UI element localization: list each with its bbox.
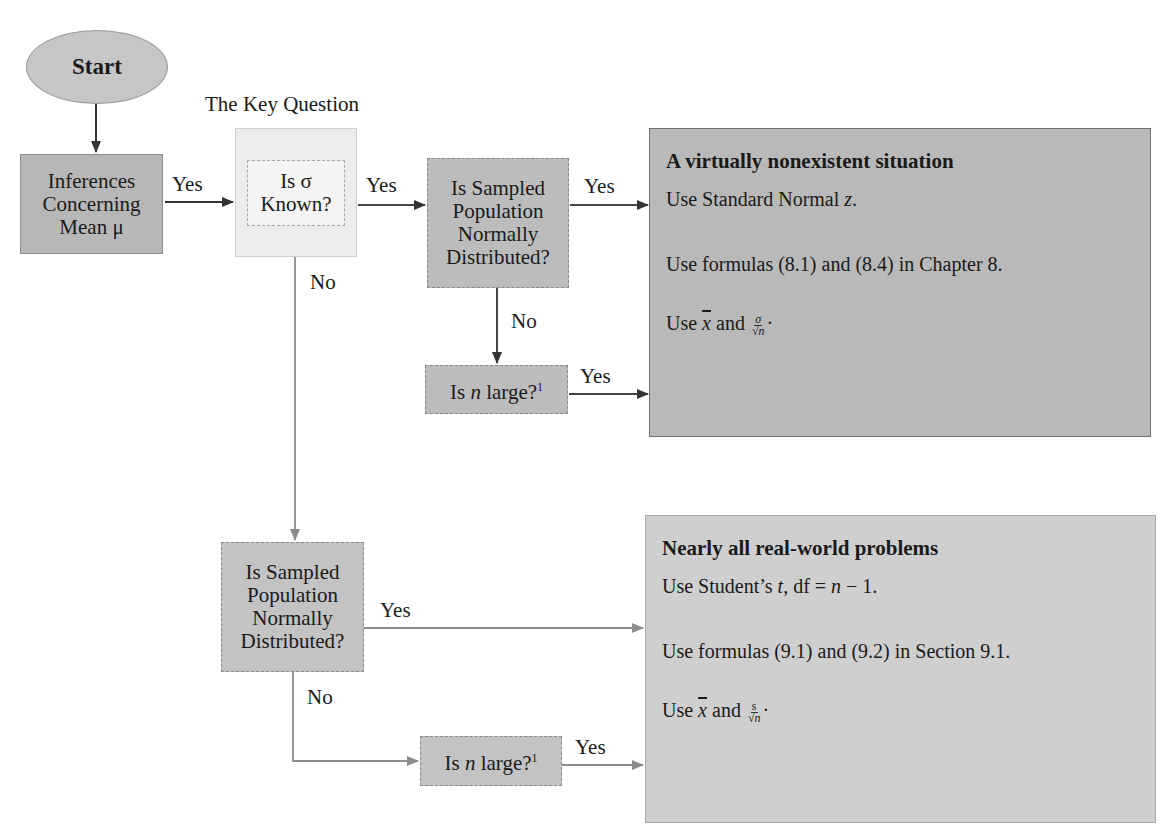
result-t-line-3: Use x and s√n· <box>662 699 1139 724</box>
normal-pop-top-node: Is Sampled Population Normally Distribut… <box>427 158 569 288</box>
normal-bottom-line-4: Distributed? <box>241 630 345 653</box>
key-question-box: Is σ Known? <box>235 128 357 257</box>
result-z-title: A virtually nonexistent situation <box>666 149 1134 174</box>
edge-label-normal-top-no: No <box>511 309 537 334</box>
inferences-line-3: Mean μ <box>59 216 123 239</box>
normal-top-line-1: Is Sampled <box>451 177 545 200</box>
edge-label-n-large-bottom-yes: Yes <box>575 735 606 760</box>
sigma-known-line-1: Is σ <box>280 170 312 193</box>
result-z-line-1: Use Standard Normal z. <box>666 188 1134 211</box>
edge-label-normal-top-yes: Yes <box>584 174 615 199</box>
n-large-top-node: Is n large?1 <box>425 365 568 414</box>
edge-label-sigma-no: No <box>310 270 336 295</box>
inferences-node: Inferences Concerning Mean μ <box>20 154 163 254</box>
normal-bottom-line-2: Population <box>247 584 338 607</box>
edge-label-n-large-top-yes: Yes <box>580 364 611 389</box>
result-t-line-2: Use formulas (9.1) and (9.2) in Section … <box>662 640 1139 663</box>
n-large-bottom-node: Is n large?1 <box>420 736 562 786</box>
n-large-top-text: Is n large?1 <box>450 376 543 404</box>
edge-label-sigma-yes: Yes <box>366 173 397 198</box>
result-box-t: Nearly all real-world problems Use Stude… <box>645 515 1156 823</box>
result-box-z: A virtually nonexistent situation Use St… <box>649 128 1151 437</box>
fraction-sigma-over-root-n: σ√n <box>752 314 765 337</box>
start-node: Start <box>26 30 168 104</box>
sigma-known-node: Is σ Known? <box>247 160 345 226</box>
start-label: Start <box>72 54 122 80</box>
sigma-known-line-2: Known? <box>260 193 331 216</box>
normal-pop-bottom-node: Is Sampled Population Normally Distribut… <box>221 542 364 672</box>
edge-label-inferences-yes: Yes <box>172 172 203 197</box>
fraction-s-over-root-n: s√n <box>748 701 761 724</box>
normal-top-line-4: Distributed? <box>446 246 550 269</box>
key-question-label: The Key Question <box>205 92 359 117</box>
inferences-line-1: Inferences <box>48 170 135 193</box>
result-t-line-1: Use Student’s t, df = n − 1. <box>662 575 1139 598</box>
result-z-line-3: Use x and σ√n· <box>666 312 1134 337</box>
normal-bottom-line-1: Is Sampled <box>246 561 340 584</box>
n-large-bottom-text: Is n large?1 <box>444 747 537 775</box>
inferences-line-2: Concerning <box>43 193 141 216</box>
normal-bottom-line-3: Normally <box>252 607 332 630</box>
normal-top-line-3: Normally <box>458 223 538 246</box>
normal-top-line-2: Population <box>452 200 543 223</box>
edge-label-normal-bottom-yes: Yes <box>380 598 411 623</box>
edge-label-normal-bottom-no: No <box>307 685 333 710</box>
result-z-line-2: Use formulas (8.1) and (8.4) in Chapter … <box>666 253 1134 276</box>
result-t-title: Nearly all real-world problems <box>662 536 1139 561</box>
